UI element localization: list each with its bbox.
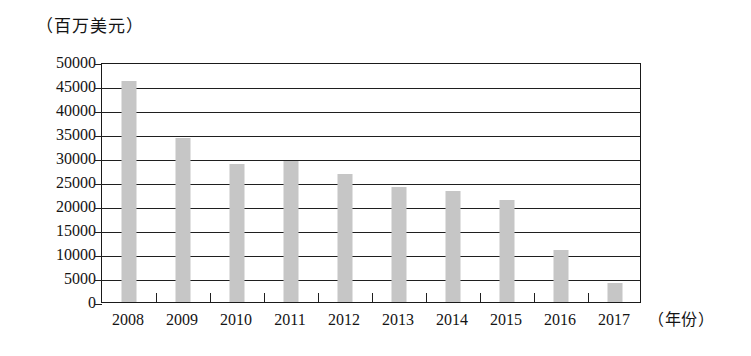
x-axis-tick-mark [480,293,481,302]
gridline [102,112,640,113]
x-axis-tick-mark [534,293,535,302]
y-axis-tick-label: 45000 [4,79,96,95]
bar [500,200,515,302]
gridline [102,88,640,89]
y-axis-tick-mark [95,160,102,161]
y-axis-tick-mark [95,184,102,185]
x-axis-tick-mark [210,293,211,302]
y-axis-tick-mark [95,280,102,281]
bar [446,191,461,302]
bar [122,81,137,302]
x-axis-tick-mark [264,293,265,302]
bar [608,283,623,302]
x-axis-tick-mark [426,293,427,302]
y-axis-tick-label: 35000 [4,127,96,143]
y-axis-tick-mark [95,136,102,137]
gridline [102,136,640,137]
y-axis-tick-label: 30000 [4,151,96,167]
bar-chart: （百万美元） 050001000015000200002500030000350… [0,0,751,356]
x-axis-tick-mark [318,293,319,302]
x-axis-title: （年份） [648,310,714,329]
x-axis-tick-label: 2017 [579,310,649,329]
y-axis-tick-mark [95,64,102,65]
y-axis-tick-label: 5000 [4,271,96,287]
y-axis-title: （百万美元） [36,18,144,35]
y-axis-tick-label: 20000 [4,199,96,215]
y-axis-tick-label: 50000 [4,55,96,71]
y-axis-tick-label: 40000 [4,103,96,119]
bar [338,174,353,302]
y-axis-tick-mark [95,256,102,257]
y-axis-tick-label: 25000 [4,175,96,191]
y-axis-tick-mark [95,88,102,89]
bar [230,164,245,302]
y-axis-tick-mark [95,232,102,233]
y-axis-tick-label: 0 [4,295,96,311]
y-axis-tick-mark [95,208,102,209]
bar [284,161,299,302]
bar [392,187,407,302]
x-axis-tick-mark [588,293,589,302]
x-axis-tick-labels: 2008200920102011201220132014201520162017 [101,310,641,340]
y-axis-tick-label: 10000 [4,247,96,263]
x-axis-tick-mark [372,293,373,302]
x-axis-tick-mark [156,293,157,302]
y-axis-tick-labels: 0500010000150002000025000300003500040000… [0,63,96,303]
bar [176,138,191,302]
plot-area [101,63,641,303]
y-axis-tick-mark [95,112,102,113]
y-axis-tick-label: 15000 [4,223,96,239]
bar [554,250,569,302]
y-axis-tick-mark [95,304,102,305]
